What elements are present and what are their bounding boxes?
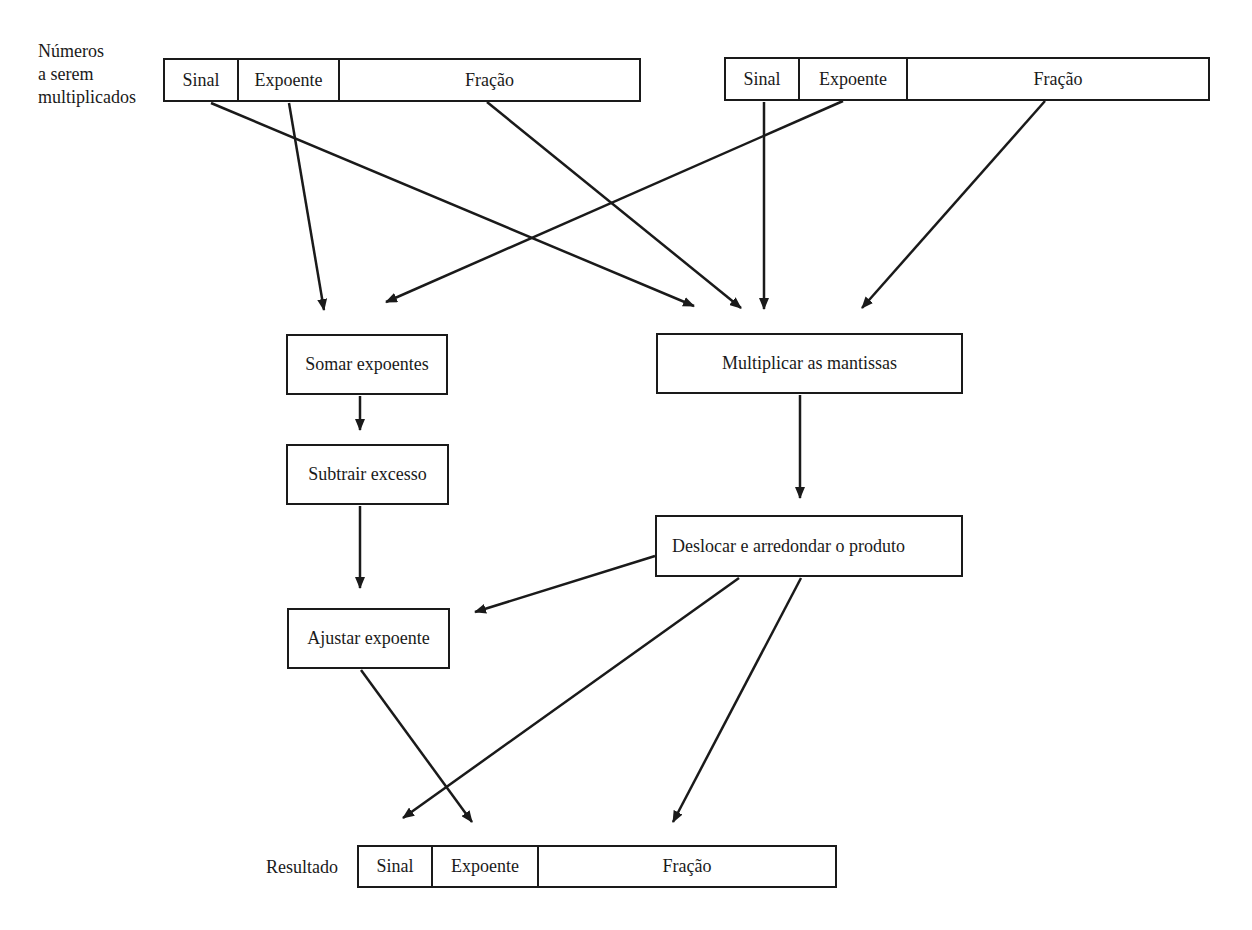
- operand-a: Sinal Expoente Fração: [163, 58, 641, 102]
- operands-label-line-1: Números: [38, 40, 104, 63]
- step-add-exponents: Somar expoentes: [286, 334, 448, 395]
- operand-b-sign-field: Sinal: [726, 59, 800, 99]
- operand-b-exponent-field: Expoente: [800, 59, 908, 99]
- arrow-shift-to-result-sign: [403, 578, 739, 818]
- operand-a-exponent-field: Expoente: [239, 60, 340, 100]
- result: Sinal Expoente Fração: [357, 845, 837, 888]
- operand-b-fraction-field: Fração: [908, 59, 1208, 99]
- arrow-shift-to-adjust: [475, 556, 655, 612]
- arrow-a-exponent-to-add: [289, 103, 324, 310]
- arrow-adjust-to-result-exponent: [361, 670, 472, 822]
- operand-a-sign-field: Sinal: [165, 60, 239, 100]
- operands-label-line-3: multiplicados: [38, 86, 136, 109]
- step-shift-and-round: Deslocar e arredondar o produto: [655, 515, 963, 577]
- operand-a-fraction-field: Fração: [340, 60, 639, 100]
- result-label: Resultado: [266, 856, 338, 879]
- arrow-b-fraction-to-multiply: [862, 101, 1045, 308]
- floating-point-multiplication-diagram: Números a serem multiplicados Sinal Expo…: [0, 0, 1252, 930]
- arrow-shift-to-result-fraction: [673, 578, 801, 822]
- result-exponent-field: Expoente: [433, 847, 539, 886]
- arrow-a-sign-to-multiply: [211, 103, 694, 306]
- operand-b: Sinal Expoente Fração: [724, 57, 1210, 101]
- connector-arrows: [0, 0, 1252, 930]
- step-subtract-bias: Subtrair excesso: [286, 444, 449, 505]
- result-sign-field: Sinal: [359, 847, 433, 886]
- operands-label-line-2: a serem: [38, 63, 93, 86]
- result-fraction-field: Fração: [539, 847, 835, 886]
- step-multiply-mantissas: Multiplicar as mantissas: [656, 333, 963, 394]
- step-adjust-exponent: Ajustar expoente: [287, 608, 450, 669]
- arrow-a-fraction-to-multiply: [487, 102, 741, 308]
